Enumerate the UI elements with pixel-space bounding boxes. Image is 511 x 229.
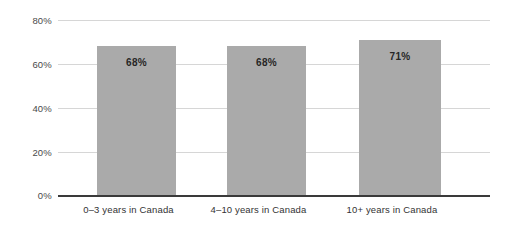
x-axis-label-4-10-years: 4–10 years in Canada [187,205,330,215]
bar-value-label: 71% [359,51,441,62]
x-axis-baseline [58,195,490,197]
x-axis-label-0-3-years: 0–3 years in Canada [57,205,200,215]
y-axis-tick-40: 40% [8,104,52,114]
y-axis-tick-80: 80% [8,16,52,26]
y-axis-tick-60: 60% [8,60,52,70]
plot-area: 68% 68% 71% [58,20,490,196]
bar-0-3-years[interactable]: 68% [97,46,176,196]
bar-chart: 80% 60% 40% 20% 0% 68% 68% 71% 0–3 years… [0,0,511,229]
bar-value-label: 68% [97,57,176,68]
bar-value-label: 68% [227,57,306,68]
y-axis: 80% 60% 40% 20% 0% [0,0,52,229]
bars-layer: 68% 68% 71% [58,20,490,196]
y-axis-tick-0: 0% [8,191,52,201]
x-axis-label-10-plus-years: 10+ years in Canada [318,205,466,215]
bar-4-10-years[interactable]: 68% [227,46,306,196]
bar-10-plus-years[interactable]: 71% [359,40,441,196]
y-axis-tick-20: 20% [8,148,52,158]
